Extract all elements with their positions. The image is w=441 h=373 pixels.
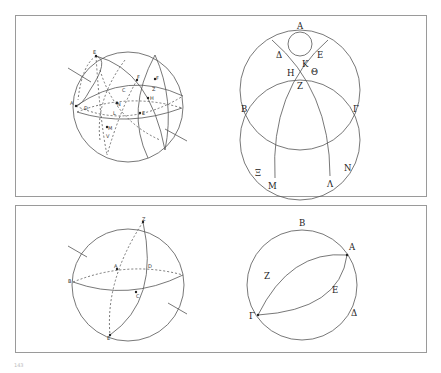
label-br-gamma: Γ xyxy=(249,311,255,321)
label-bl-c: C xyxy=(136,293,140,299)
label-tr-mu: Μ xyxy=(268,181,277,191)
label-tr-beta: Β xyxy=(241,104,247,114)
label-tl-e1: E xyxy=(93,49,96,55)
label-br-delta: Δ xyxy=(351,308,357,318)
label-tl-z: Z xyxy=(152,86,156,92)
label-tl-v: V xyxy=(106,133,110,139)
label-tl-d: D xyxy=(84,105,88,111)
label-tr-epsilon: Ε xyxy=(317,50,323,60)
label-tl-c: C xyxy=(122,87,126,93)
label-tl-a: A xyxy=(70,100,74,106)
label-tr-lambda: Λ xyxy=(326,179,334,189)
label-bl-z: Z xyxy=(142,216,146,222)
label-tr-theta: Θ xyxy=(311,67,318,77)
bottom-right-planar xyxy=(247,230,357,340)
label-br-alpha: Α xyxy=(348,242,356,252)
diagram-canvas: E A D C N F F Z H E L M V Α Δ Ε Κ Η Θ Ζ … xyxy=(0,0,441,373)
page-number: 143 xyxy=(14,362,24,368)
bottom-left-sphere xyxy=(68,222,187,341)
label-br-epsilon: Ε xyxy=(332,285,338,295)
label-bl-e: E xyxy=(107,335,110,341)
label-tr-delta: Δ xyxy=(276,50,282,60)
label-tl-e2: E xyxy=(142,110,145,116)
label-tr-gamma: Γ xyxy=(353,104,359,114)
label-tl-n: N xyxy=(117,101,121,107)
label-tr-alpha: Α xyxy=(296,21,304,31)
label-bl-d: D xyxy=(148,263,152,269)
label-br-beta: Β xyxy=(299,218,305,228)
label-tl-l: L xyxy=(113,110,116,116)
label-bl-b: B xyxy=(68,278,72,284)
label-tr-zeta: Ζ xyxy=(297,81,303,91)
label-tl-m: M xyxy=(108,125,112,131)
label-br-zeta: Ζ xyxy=(264,271,270,281)
label-bl-a: A xyxy=(114,263,118,269)
label-tl-h: H xyxy=(150,95,154,101)
label-tr-eta: Η xyxy=(287,68,294,78)
label-tr-nu: Ν xyxy=(344,163,352,173)
label-tl-f2: F xyxy=(156,75,159,81)
label-tl-f1: F xyxy=(137,74,140,80)
label-tr-xi: Ξ xyxy=(255,168,261,178)
label-tr-kappa: Κ xyxy=(302,59,309,69)
